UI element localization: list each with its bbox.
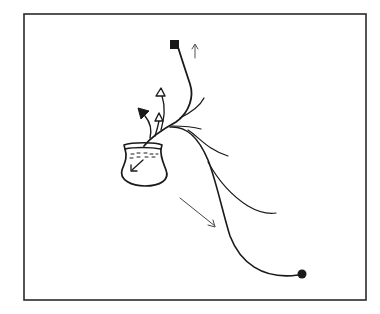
vessel-rim [124,143,162,149]
inner-arrow-shaft [132,160,143,170]
branch-lower-right [208,162,276,213]
long-branch-to-dot [170,127,298,276]
open-triangle-lower-icon [155,113,163,121]
open-triangle-upper-icon [156,88,165,96]
vessel-body [122,149,167,186]
end-dot-marker [298,270,307,279]
stem-filled-triangle [145,116,151,138]
vessel-liquid-line-1 [131,153,158,154]
filled-triangle-icon [138,108,149,119]
stem-open-triangle-upper [161,96,164,130]
branch-mid-right [188,130,228,156]
diagram-svg [0,0,380,314]
start-square-marker [170,40,179,49]
vessel-liquid-line-2 [130,157,155,158]
diagram-canvas [0,0,380,314]
diagonal-arrow-shaft [180,198,215,226]
